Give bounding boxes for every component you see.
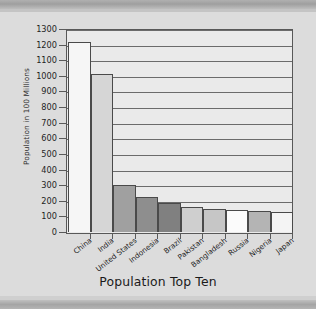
y-axis-tick-label: 400 <box>41 165 57 175</box>
y-axis-tick-label: 700 <box>41 118 57 128</box>
bar <box>136 197 159 232</box>
bar <box>113 185 136 232</box>
y-axis-tick-label: 800 <box>41 102 57 112</box>
x-axis-title: Population Top Ten <box>0 274 316 289</box>
y-axis-tick <box>59 76 66 77</box>
y-axis-tick-label: 300 <box>41 180 57 190</box>
bar-chart-figure: Population in 100 Millions 0100200300400… <box>0 12 316 297</box>
y-axis-tick <box>59 154 66 155</box>
plot-area <box>66 29 293 234</box>
y-axis-tick-label: 1200 <box>36 40 57 50</box>
y-axis-tick <box>59 170 66 171</box>
y-axis-tick <box>59 201 66 202</box>
bar <box>248 211 271 232</box>
y-axis-tick-label: 0 <box>52 227 57 237</box>
bar <box>203 209 226 232</box>
y-axis-tick-label: 1000 <box>36 71 57 81</box>
bar <box>181 207 204 232</box>
y-axis-tick <box>59 232 66 233</box>
y-axis-tick <box>59 107 66 108</box>
bar <box>226 210 249 232</box>
page-edge-band-bottom <box>0 300 316 309</box>
x-axis-tick-label: China <box>71 236 93 256</box>
y-axis-tick-label: 600 <box>41 133 57 143</box>
y-axis-tick <box>59 45 66 46</box>
screenshot-page: Population in 100 Millions 0100200300400… <box>0 0 316 309</box>
bar <box>158 203 181 232</box>
y-axis-tick-label: 200 <box>41 196 57 206</box>
x-axis-tick-label: Japan <box>274 236 296 256</box>
bar <box>271 212 294 232</box>
y-axis-tick <box>59 138 66 139</box>
y-axis-tick-label: 1300 <box>36 24 57 34</box>
y-axis-tick-label: 100 <box>41 211 57 221</box>
y-axis-tick <box>59 185 66 186</box>
y-axis-tick <box>59 216 66 217</box>
y-axis-tick-label: 1100 <box>36 55 57 65</box>
y-axis-tick-label: 900 <box>41 86 57 96</box>
y-axis-tick <box>59 123 66 124</box>
bars-group <box>68 29 293 232</box>
plot-area-wrapper: 0100200300400500600700800900100011001200… <box>66 29 293 234</box>
bar <box>68 42 91 233</box>
bar <box>91 74 114 232</box>
y-axis-tick-label: 500 <box>41 149 57 159</box>
x-axis-tick-label: Nigeria <box>247 236 273 259</box>
x-axis-tick-label: Russia <box>227 236 251 258</box>
y-axis-tick <box>59 29 66 30</box>
y-axis-tick <box>59 60 66 61</box>
page-edge-band-top <box>0 0 316 9</box>
y-axis-tick <box>59 91 66 92</box>
y-axis-title: Population in 100 Millions <box>22 47 31 187</box>
